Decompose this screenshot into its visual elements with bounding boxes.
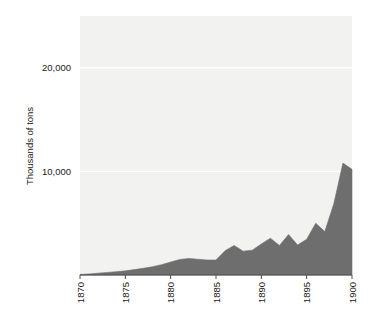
x-tick-label-1885: 1885: [211, 282, 222, 303]
x-tick-label-1895: 1895: [301, 282, 312, 303]
x-tick-label-1870: 1870: [75, 282, 86, 303]
x-tick-label-1900: 1900: [347, 282, 358, 303]
area-chart-figure: 1870187518801885189018951900 10,00020,00…: [0, 0, 376, 322]
x-tick-label-1875: 1875: [120, 282, 131, 303]
y-axis-title: Thousands of tons: [24, 107, 35, 185]
x-tick-label-1890: 1890: [256, 282, 267, 303]
x-tick-label-1880: 1880: [165, 282, 176, 303]
y-tick-label-20000: 20,000: [42, 62, 71, 73]
y-tick-label-10000: 10,000: [42, 166, 71, 177]
